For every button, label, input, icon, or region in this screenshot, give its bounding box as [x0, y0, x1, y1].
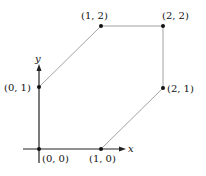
edge-10-21 — [101, 88, 163, 149]
point-1-2 — [99, 24, 103, 28]
point-0-1 — [37, 85, 41, 89]
polygon-diagram: x y (0, 0) (1, 0) (2, 1) (2, 2) (1, 2) (… — [0, 0, 206, 176]
point-2-1 — [161, 86, 165, 90]
x-axis-label: x — [128, 143, 134, 154]
point-2-2 — [161, 24, 165, 28]
label-2-2: (2, 2) — [162, 10, 189, 21]
label-2-1: (2, 1) — [167, 83, 194, 94]
y-axis-arrow-icon — [37, 64, 42, 71]
x-axis-arrow-icon — [119, 147, 126, 152]
point-1-0 — [99, 147, 103, 151]
label-1-2: (1, 2) — [81, 10, 108, 21]
y-axis-label: y — [34, 53, 41, 64]
edge-12-01 — [39, 26, 101, 87]
label-0-0: (0, 0) — [42, 153, 69, 164]
point-0-0 — [37, 147, 41, 151]
polygon-edges — [39, 26, 163, 149]
points — [37, 24, 165, 151]
label-1-0: (1, 0) — [89, 153, 116, 164]
label-0-1: (0, 1) — [4, 82, 31, 93]
